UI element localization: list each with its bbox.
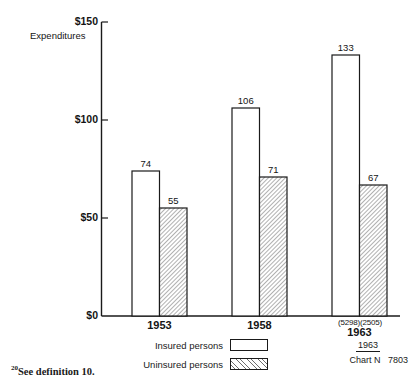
legend-item-uninsured: Uninsured persons <box>108 356 268 372</box>
bar-1963-uninsured <box>360 185 388 316</box>
footnote-text: See definition 10. <box>18 366 95 377</box>
bar-1963-insured <box>332 55 360 316</box>
y-tick-label-50: $50 <box>54 212 98 223</box>
source-year: 1963 <box>356 340 380 352</box>
source-chart-number: Chart N 7803 <box>349 355 408 365</box>
bar-value-1963-uninsured: 67 <box>360 172 388 183</box>
bar-value-1958-insured: 106 <box>232 95 260 106</box>
bar-1953-insured <box>132 171 160 316</box>
y-tick-label-0: $0 <box>54 310 98 321</box>
source-block: 1963 Chart N 7803 <box>349 340 408 365</box>
bar-value-1963-insured: 133 <box>332 42 360 53</box>
footnote: 20See definition 10. <box>11 364 95 377</box>
chart-page: $150 $100 $50 $0 Expenditures 74 55 106 … <box>0 0 416 383</box>
legend-swatch-insured <box>230 339 268 351</box>
chart-legend: Insured persons Uninsured persons <box>108 337 268 375</box>
x-category-label-1953: 1953 <box>129 320 190 331</box>
bar-value-1958-uninsured: 71 <box>260 164 288 175</box>
x-category-label-1963: 1963 <box>329 327 390 338</box>
legend-item-insured: Insured persons <box>108 337 268 353</box>
y-axis-title: Expenditures <box>30 30 85 41</box>
bar-1958-insured <box>232 108 260 316</box>
legend-label-insured: Insured persons <box>155 340 223 351</box>
bar-value-1953-insured: 74 <box>132 158 160 169</box>
legend-label-uninsured: Uninsured persons <box>143 359 223 370</box>
y-tick-label-100: $100 <box>54 114 98 125</box>
source-year-line: 1963 <box>349 340 408 352</box>
x-category-label-1958: 1958 <box>229 320 290 331</box>
y-tick-label-150: $150 <box>54 16 98 27</box>
bar-1953-uninsured <box>160 208 188 316</box>
bar-chart: $150 $100 $50 $0 Expenditures 74 55 106 … <box>0 0 416 383</box>
bar-value-1953-uninsured: 55 <box>160 195 188 206</box>
bar-1958-uninsured <box>260 177 288 316</box>
footnote-marker: 20 <box>11 364 18 372</box>
legend-swatch-uninsured <box>230 358 268 370</box>
